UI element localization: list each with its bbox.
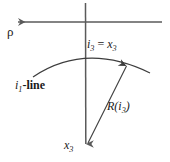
label-x3-axis: x3 (64, 139, 73, 154)
i1-line-arc (33, 58, 150, 77)
i3-subscript: 3 (90, 44, 94, 53)
x3-axis-subscript: 3 (69, 145, 73, 154)
label-i1-line: i1-line (15, 79, 45, 94)
figure-canvas: ρ i3 = x3 i1-line R(i3) x3 (0, 0, 170, 162)
label-radius-function: R(i3) (107, 100, 130, 115)
x3-subscript: 3 (113, 44, 117, 53)
label-i3-equals-x3: i3 = x3 (87, 38, 117, 53)
equals-sign: = (97, 37, 104, 51)
radius-paren-close: ) (126, 99, 130, 113)
i1-line-suffix: -line (22, 78, 45, 92)
label-rho: ρ (7, 25, 14, 38)
